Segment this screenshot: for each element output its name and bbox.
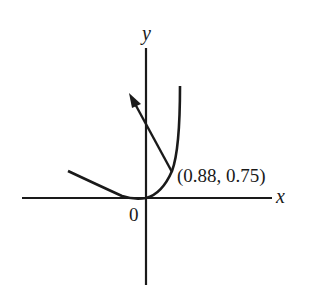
y-axis-label: y [140,22,151,45]
x-axis-label: x [275,185,285,207]
origin-label: 0 [129,204,139,225]
arrow-vector [134,102,172,172]
arrow-head-icon [129,93,141,108]
diagram-canvas: y x 0 (0.88, 0.75) [0,0,309,304]
curve [68,86,180,199]
point-label: (0.88, 0.75) [177,165,266,187]
